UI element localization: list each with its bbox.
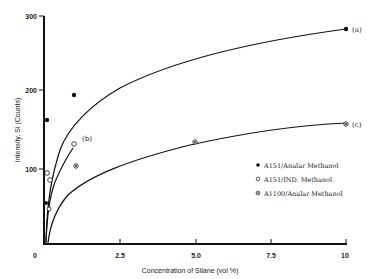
- legend-label: A151/Analar Methanol: [263, 162, 339, 170]
- data-point-c: [344, 122, 348, 126]
- data-point-b: [72, 142, 77, 147]
- legend-marker-open-circle-icon: [256, 177, 260, 181]
- x-tick-label: 5.0: [191, 252, 201, 259]
- y-tick-label: 100: [25, 166, 37, 173]
- curve-label-a: (a): [352, 26, 362, 34]
- data-point-a: [72, 93, 76, 97]
- legend-marker-filled-circle-icon: [256, 163, 260, 167]
- legend-label: A1100/Analar Methanol: [263, 190, 343, 198]
- x-tick-label: 2.5: [115, 252, 125, 259]
- data-point-a: [45, 118, 49, 122]
- chart: 300 200 100 0 2.5 5.0 7.5 10 Concentrati…: [0, 0, 367, 279]
- legend: A151/Analar Methanol A151/IND. Methanol …: [256, 162, 343, 198]
- x-tick-label: 7.5: [266, 252, 276, 259]
- curve-label-c: (c): [352, 121, 362, 129]
- legend-label: A151/IND. Methanol: [263, 176, 332, 184]
- legend-marker-circled-cross-icon: [256, 191, 260, 195]
- y-axis-label: Intensity, Si (Counts): [14, 98, 22, 162]
- x-axis-label: Concentration of Silane (vol %): [142, 267, 239, 275]
- curve-label-b: (b): [82, 135, 92, 143]
- data-point-c: [193, 140, 197, 144]
- data-point-c: [47, 207, 51, 211]
- data-point-b: [45, 171, 50, 176]
- data-point-c: [74, 164, 78, 168]
- y-tick-label: 300: [25, 13, 37, 20]
- data-point-a: [44, 201, 48, 205]
- x-tick-label: 10: [341, 252, 349, 259]
- x-tick-label: 0: [33, 252, 37, 259]
- y-tick-label: 200: [25, 87, 37, 94]
- data-point-a: [344, 27, 348, 31]
- data-point-b: [48, 178, 53, 183]
